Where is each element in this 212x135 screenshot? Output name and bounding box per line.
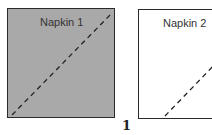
diagonal-fold-line	[139, 10, 212, 120]
napkin-1-square: Napkin 1	[7, 8, 115, 118]
figure-number: 1	[122, 118, 131, 133]
diagonal-fold-line	[8, 9, 116, 119]
napkin-2-square: Napkin 2	[138, 9, 212, 119]
